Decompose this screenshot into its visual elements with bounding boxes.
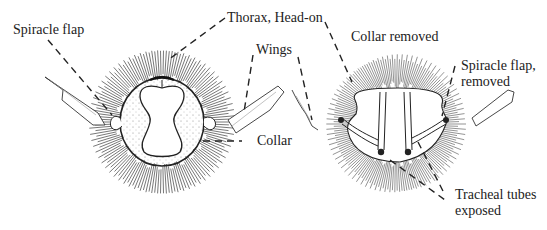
leader-thorax-left	[168, 18, 225, 60]
label-collar-removed: Collar removed	[351, 29, 438, 45]
label-tracheal-tubes-1: Tracheal tubes	[455, 187, 537, 203]
label-tracheal-tubes-2: exposed	[455, 203, 501, 219]
leader-thorax-right	[325, 22, 352, 82]
label-collar: Collar	[257, 133, 292, 149]
right-wing-right	[472, 90, 514, 126]
left-thorax	[45, 50, 284, 193]
label-spiracle-flap: Spiracle flap	[13, 22, 84, 38]
left-wing-left	[45, 77, 105, 125]
label-thorax-head-on: Thorax, Head-on	[227, 10, 323, 26]
label-spiracle-flap-removed-2: removed	[461, 74, 510, 90]
right-wing-left	[292, 90, 318, 130]
leader-wings-right	[298, 57, 312, 120]
left-wing-right	[228, 86, 284, 133]
spiracle-flap-right	[204, 117, 216, 130]
label-spiracle-flap-removed-1: Spiracle flap,	[461, 58, 536, 74]
label-wings: Wings	[256, 42, 292, 58]
